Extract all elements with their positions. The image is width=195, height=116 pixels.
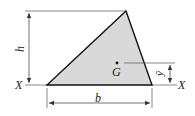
height-label: h bbox=[14, 46, 26, 52]
triangle-shape bbox=[47, 11, 152, 85]
axis-label-left: X bbox=[15, 79, 22, 91]
axis-label-right: X bbox=[178, 79, 185, 91]
centroid-distance-label: ȳ bbox=[154, 71, 165, 76]
triangle-diagram: X X h b G ȳ bbox=[0, 0, 195, 116]
base-label: b bbox=[95, 92, 101, 104]
centroid-label: G bbox=[112, 66, 121, 78]
